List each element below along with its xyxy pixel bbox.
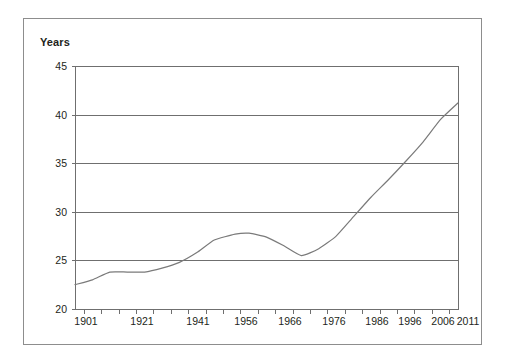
y-tick-labels: 45 40 35 30 25 20	[55, 60, 67, 315]
x-tick-label-1976: 1976	[322, 315, 346, 327]
x-tick-label-1956: 1956	[234, 315, 258, 327]
line-chart-plot: 45 40 35 30 25 20 1901 1921 1941 1956 19…	[0, 0, 506, 364]
data-series-line	[75, 103, 458, 285]
x-tick-label-1921: 1921	[130, 315, 154, 327]
x-tick-label-1966: 1966	[278, 315, 302, 327]
figure-root: Years 45 40 35	[0, 0, 506, 364]
x-tick-labels: 1901 1921 1941 1956 1966 1976 1986 1996 …	[74, 315, 479, 327]
x-tick-label-1941: 1941	[186, 315, 210, 327]
gridlines	[76, 67, 459, 261]
y-tick-label-25: 25	[55, 254, 67, 266]
x-tick-label-2011: 2011	[457, 315, 480, 327]
y-tick-label-35: 35	[55, 157, 67, 169]
x-tick-label-2006: 2006	[431, 315, 455, 327]
y-tick-label-40: 40	[55, 109, 67, 121]
x-tick-label-1901: 1901	[74, 315, 98, 327]
x-tick-label-1986: 1986	[365, 315, 389, 327]
y-tickmarks	[72, 67, 76, 310]
y-tick-label-20: 20	[55, 303, 67, 315]
axes	[76, 67, 459, 310]
y-tick-label-30: 30	[55, 206, 67, 218]
y-tick-label-45: 45	[55, 60, 67, 72]
x-tickmarks	[85, 310, 450, 314]
x-tick-label-1996: 1996	[398, 315, 422, 327]
